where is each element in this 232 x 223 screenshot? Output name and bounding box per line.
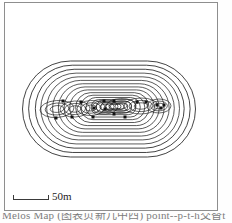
contour-line	[50, 105, 64, 113]
data-point-marker	[124, 116, 127, 119]
figure-caption-clip: Melos Map (图表页新几中西) point--p-t-h交替t	[0, 213, 232, 223]
data-point-marker	[104, 108, 107, 111]
scale-bar-label: 50m	[52, 191, 72, 202]
data-point-marker	[163, 104, 166, 107]
contour-svg	[5, 3, 217, 210]
data-point-marker	[136, 101, 139, 104]
data-point-marker	[71, 116, 74, 119]
data-point-marker	[156, 104, 159, 107]
data-point-marker	[62, 100, 65, 103]
data-point-marker	[93, 107, 96, 110]
data-point-marker	[92, 116, 95, 119]
scale-bar: 50m	[13, 186, 72, 202]
scale-bar-graphic	[13, 193, 49, 200]
figure-frame: 50m	[4, 2, 218, 211]
contour-plot	[5, 3, 217, 210]
scale-bar-line	[13, 199, 49, 200]
data-point-marker	[103, 100, 106, 103]
data-point-marker	[113, 100, 116, 103]
data-point-marker	[145, 101, 148, 104]
contour-line-group	[23, 61, 196, 157]
data-point-marker	[113, 113, 116, 116]
data-point-marker	[80, 101, 83, 104]
contour-line	[69, 105, 81, 112]
data-point-marker	[55, 117, 58, 120]
figure-root: 50m Melos Map (图表页新几中西) point--p-t-h交替t	[0, 0, 232, 223]
data-point-marker	[160, 107, 163, 110]
contour-line	[45, 102, 70, 116]
scale-bar-tick-right	[48, 195, 49, 200]
figure-caption: Melos Map (图表页新几中西) point--p-t-h交替t	[2, 213, 226, 221]
